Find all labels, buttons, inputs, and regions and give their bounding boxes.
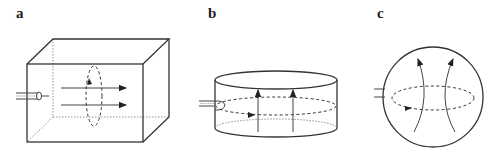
box-icon <box>27 39 169 142</box>
inlet-pipe-a <box>16 92 49 100</box>
panel-b: b <box>199 5 337 137</box>
rotation-loop-a <box>86 66 102 126</box>
panel-c: c <box>374 5 483 147</box>
flow-arrows-b <box>258 90 293 132</box>
sphere-icon <box>383 47 483 147</box>
panel-a: a <box>16 5 169 142</box>
flow-arrows-c <box>414 59 455 132</box>
swirl-loop-c <box>392 86 474 111</box>
cylinder-icon <box>215 71 337 137</box>
inlet-pipe-b <box>199 101 225 110</box>
panel-label-c: c <box>377 5 384 21</box>
flow-arrows-a <box>61 88 126 105</box>
panel-label-b: b <box>208 5 216 21</box>
diagram-canvas: a b <box>0 0 497 156</box>
panel-label-a: a <box>16 5 24 21</box>
swirl-loop-b <box>216 97 336 118</box>
